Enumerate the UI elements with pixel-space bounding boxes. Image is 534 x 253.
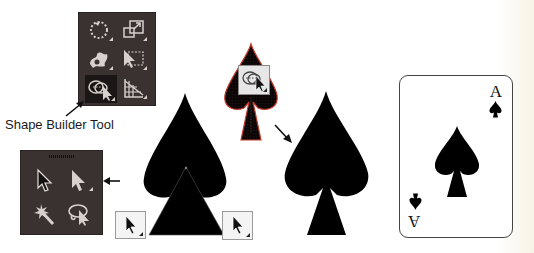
spade-suit-icon	[489, 101, 502, 118]
anchor-point-icon	[185, 167, 187, 169]
card-rank-bottom: A	[408, 213, 420, 230]
direct-selection-tool-button[interactable]	[65, 167, 95, 193]
selection-tool-indicator-left[interactable]	[115, 211, 146, 239]
submenu-indicator-icon	[89, 187, 93, 191]
card-rank-top: A	[490, 83, 502, 100]
submenu-indicator-icon	[143, 37, 147, 41]
selection-arrow-icon	[31, 167, 61, 193]
magic-wand-tool-button[interactable]	[31, 201, 61, 227]
ace-of-spades-card: A A	[399, 75, 513, 238]
warp-tool-button[interactable]	[85, 46, 115, 72]
free-transform-tool-button[interactable]	[119, 46, 149, 72]
panel-grip[interactable]	[49, 155, 75, 158]
shape-builder-caption: Shape Builder Tool	[5, 117, 114, 132]
submenu-indicator-icon	[139, 232, 143, 236]
spade-suit-icon-rotated	[409, 193, 422, 210]
submenu-indicator-icon	[109, 66, 113, 70]
tools-panel-selection	[20, 150, 103, 235]
selection-tool-button[interactable]	[31, 167, 61, 193]
submenu-indicator-icon	[263, 88, 267, 92]
spade-center-icon	[434, 126, 480, 198]
shape-builder-cursor-indicator[interactable]	[238, 65, 270, 95]
submenu-indicator-icon	[109, 37, 113, 41]
submenu-indicator-icon	[143, 66, 147, 70]
magic-wand-icon	[31, 201, 61, 227]
lasso-icon	[65, 201, 95, 227]
spade-triangle-shapes[interactable]	[138, 88, 233, 240]
submenu-indicator-icon	[111, 97, 115, 101]
merged-spade-shape[interactable]	[280, 88, 375, 240]
lasso-tool-button[interactable]	[65, 201, 95, 227]
scale-tool-button[interactable]	[119, 17, 149, 43]
submenu-indicator-icon	[246, 233, 250, 237]
selection-tool-indicator-right[interactable]	[222, 211, 253, 240]
rotate-tool-button[interactable]	[85, 17, 115, 43]
pointer-arrow-left-icon	[102, 174, 122, 188]
